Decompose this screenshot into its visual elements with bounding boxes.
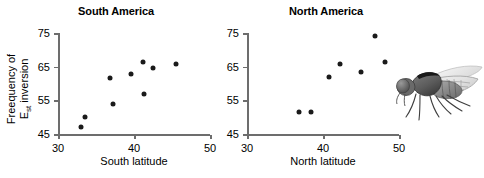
x-axis-tick	[210, 135, 212, 139]
y-axis-line	[247, 33, 249, 134]
data-point	[383, 59, 388, 64]
x-axis-tick-label: 50	[393, 142, 405, 154]
data-point	[83, 115, 88, 120]
plot-area: 45556575304050	[247, 33, 399, 134]
data-point	[308, 110, 313, 115]
x-axis-tick-label: 40	[317, 142, 329, 154]
y-axis-tick	[54, 33, 58, 35]
x-axis-title: North latitude	[247, 155, 399, 167]
data-point	[338, 61, 343, 66]
data-point	[151, 66, 156, 71]
y-axis-tick-label: 65	[24, 61, 50, 73]
y-axis-tick-label: 55	[24, 94, 50, 106]
data-point	[141, 92, 146, 97]
data-point	[110, 102, 115, 107]
scatter-figure: Freequency of Est inversion South Americ…	[0, 0, 484, 178]
y-axis-tick	[243, 100, 247, 102]
x-axis-tick-label: 50	[204, 142, 216, 154]
fruit-fly-illustration	[392, 54, 484, 126]
y-axis-tick-label: 45	[213, 128, 239, 140]
panel-title: South America	[0, 5, 232, 17]
y-axis-tick	[54, 100, 58, 102]
y-axis-tick-label: 75	[24, 27, 50, 39]
data-point	[141, 59, 146, 64]
x-axis-tick	[399, 135, 401, 139]
y-axis-tick-label: 75	[213, 27, 239, 39]
y-axis-line	[58, 33, 60, 134]
panel-south-america: South America 45556575304050 South latit…	[0, 0, 242, 178]
y-axis-tick-label: 55	[213, 94, 239, 106]
y-axis-tick	[54, 67, 58, 69]
y-axis-tick	[243, 67, 247, 69]
x-axis-title: South latitude	[58, 155, 210, 167]
data-point	[107, 76, 112, 81]
plot-area: 45556575304050	[58, 33, 210, 134]
x-axis-tick-label: 30	[241, 142, 253, 154]
x-axis-tick-label: 30	[52, 142, 64, 154]
x-axis-tick	[134, 135, 136, 139]
data-point	[359, 70, 364, 75]
x-axis-tick	[247, 135, 249, 139]
data-point	[173, 61, 178, 66]
panel-title: North America	[230, 5, 422, 17]
data-point	[372, 34, 377, 39]
data-point	[78, 125, 83, 130]
x-axis-tick	[323, 135, 325, 139]
y-axis-tick-label: 65	[213, 61, 239, 73]
data-point	[128, 72, 133, 77]
y-axis-tick	[243, 33, 247, 35]
x-axis-tick	[58, 135, 60, 139]
data-point	[297, 110, 302, 115]
data-point	[327, 74, 332, 79]
x-axis-tick-label: 40	[128, 142, 140, 154]
y-axis-tick-label: 45	[24, 128, 50, 140]
